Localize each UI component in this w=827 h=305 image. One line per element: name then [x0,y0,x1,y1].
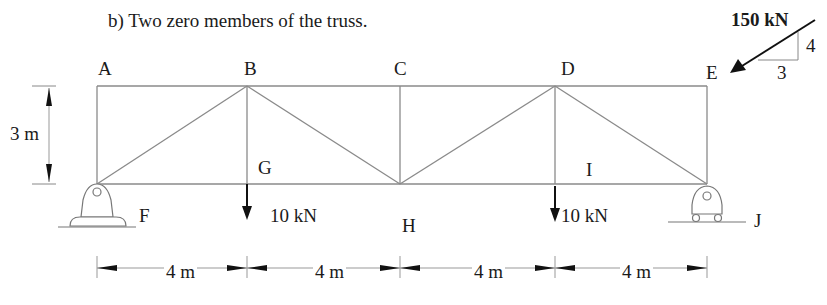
span-label-2: 4 m [313,262,346,281]
roller-support-icon [668,186,746,222]
span-label-4: 4 m [620,262,653,281]
load-arrow-i [550,186,560,222]
slope-horizontal-label: 3 [777,63,787,82]
node-label-j: J [754,211,761,230]
node-label-a: A [98,59,112,78]
node-label-f: F [139,206,150,225]
slope-triangle [758,32,798,60]
member-DJ [555,86,707,184]
node-label-b: B [244,59,257,78]
height-dimension-label: 3 m [10,124,39,143]
node-label-c: C [394,59,407,78]
span-label-1: 4 m [164,262,197,281]
pin-support-icon [58,184,136,227]
node-label-g: G [258,158,272,177]
span-label-3: 4 m [472,262,505,281]
node-label-e: E [706,63,718,82]
member-FB [97,86,247,184]
load-label-g: 10 kN [270,206,317,225]
inclined-load-label: 150 kN [731,10,789,29]
node-label-h: H [402,216,416,235]
load-arrow-g [242,184,252,220]
node-label-i: I [586,160,592,179]
truss-members [97,86,707,184]
node-label-d: D [561,59,575,78]
slope-vertical-label: 4 [806,36,816,55]
question-title: b) Two zero members of the truss. [108,10,368,32]
truss-diagram [0,0,827,305]
member-HD [400,86,555,184]
load-label-i: 10 kN [561,206,608,225]
